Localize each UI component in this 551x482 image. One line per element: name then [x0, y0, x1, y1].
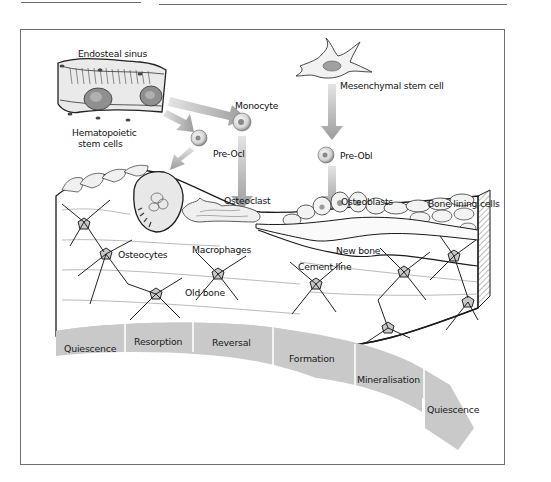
label-osteoclast: Osteoclast: [224, 195, 271, 206]
stage-mineralisation: Mineralisation: [357, 374, 420, 385]
label-mesenchymal-stem-cell: Mesenchymal stem cell: [340, 80, 444, 91]
mesenchymal-stem-cell: [296, 38, 372, 78]
monocyte-cell: [233, 113, 251, 131]
label-monocyte: Monocyte: [235, 100, 279, 111]
label-osteoblasts: Osteoblasts: [341, 196, 393, 207]
label-cement-line: Cement line: [298, 261, 352, 272]
stage-band: [56, 320, 474, 450]
stage-quiescence-end: Quiescence: [427, 404, 480, 415]
label-pre-obl: Pre-Obl: [340, 150, 372, 161]
label-hematopoietic-line1: Hematopoietic: [72, 127, 137, 138]
pre-osteoblast-cell: [318, 147, 334, 163]
label-pre-ocl: Pre-Ocl: [213, 148, 245, 159]
stage-formation: Formation: [289, 353, 335, 364]
label-endosteal-sinus: Endosteal sinus: [78, 48, 147, 59]
label-bone-lining-cells: Bone lining cells: [428, 198, 500, 209]
stage-reversal: Reversal: [212, 337, 251, 348]
stage-resorption: Resorption: [134, 336, 183, 347]
pre-osteoclast-cell: [191, 130, 207, 146]
bone-remodelling-diagram: Endosteal sinus Hematopoietic stem cells…: [0, 0, 551, 482]
endosteal-sinus-illustration: [58, 59, 166, 122]
label-old-bone: Old bone: [185, 287, 225, 298]
label-new-bone: New bone: [336, 245, 381, 256]
label-hematopoietic-line2: stem cells: [78, 138, 123, 149]
stage-quiescence-start: Quiescence: [64, 343, 117, 354]
label-osteocytes: Osteocytes: [118, 249, 168, 260]
label-macrophages: Macrophages: [192, 244, 252, 255]
